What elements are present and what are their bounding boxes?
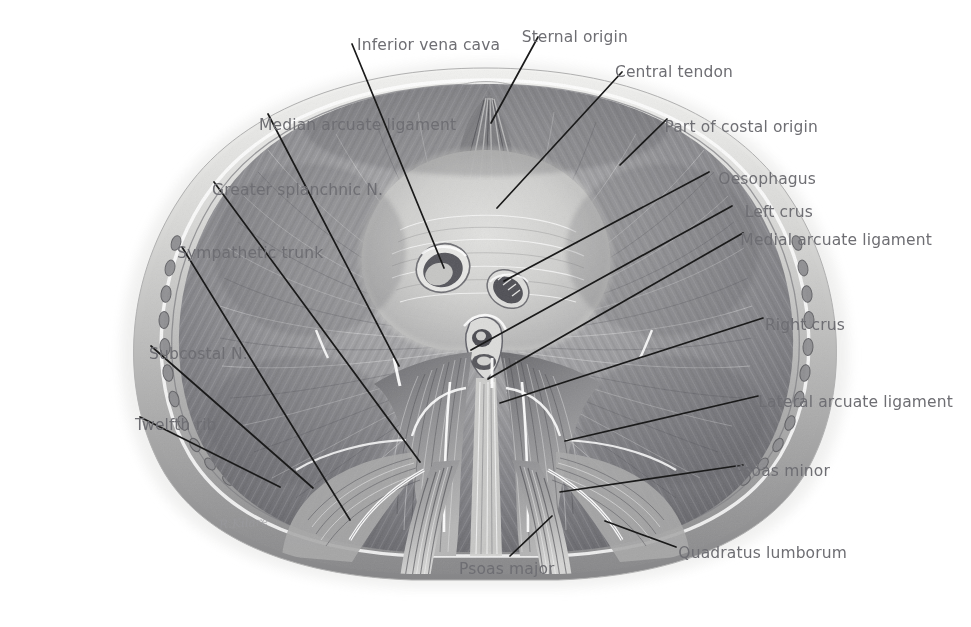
label-left-crus: Left crus bbox=[745, 205, 813, 221]
label-right-crus: Right crus bbox=[765, 318, 845, 334]
label-lateral-arcuate-ligament: Lateral arcuate ligament bbox=[758, 395, 953, 411]
label-greater-splanchnic-nerve: Greater splanchnic N. bbox=[212, 183, 383, 199]
label-median-arcuate-ligament: Median arcuate ligament bbox=[259, 118, 456, 134]
label-oesophagus: Oesophagus bbox=[718, 172, 816, 188]
diaphragm-anatomical-illustration bbox=[0, 0, 971, 627]
label-sympathetic-trunk: Sympathetic trunk bbox=[177, 246, 323, 262]
label-quadratus-lumborum: Quadratus lumborum bbox=[678, 546, 847, 562]
label-sternal-origin: Sternal origin bbox=[522, 30, 628, 46]
label-psoas-minor: Psoas minor bbox=[734, 464, 830, 480]
footer-caption-strip bbox=[0, 617, 971, 627]
label-part-of-costal-origin: Part of costal origin bbox=[664, 120, 818, 136]
label-inferior-vena-cava: Inferior vena cava bbox=[357, 38, 500, 54]
label-central-tendon: Central tendon bbox=[615, 65, 733, 81]
label-medial-arcuate-ligament: Medial arcuate ligament bbox=[740, 233, 932, 249]
label-psoas-major: Psoas major bbox=[459, 562, 555, 578]
label-subcostal-nerve: Subcostal N. bbox=[149, 347, 248, 363]
label-twelfth-rib: Twelfth rib bbox=[135, 418, 217, 434]
